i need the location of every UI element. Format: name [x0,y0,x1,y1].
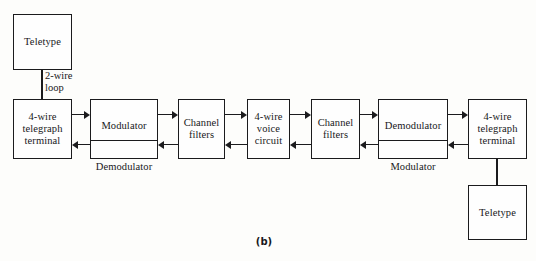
arrow-demodulator-to-terminal-right [448,110,468,119]
arrow-terminal-to-modulator-right [448,140,468,149]
arrow-demodulator-to-terminal [72,140,90,149]
arrow-filters-to-demodulator-left [158,140,178,149]
block-modulator-left: Modulator [91,112,157,141]
figure-caption: (b) [234,236,294,247]
block-modem-left: Modulator Demodulator [90,99,158,159]
arrow-modulator-to-filters-left [158,110,178,119]
connector-terminal-to-teletype-right [496,159,498,186]
arrow-filters-to-voice-left [225,110,247,119]
block-terminal-right: 4-wire telegraph terminal [468,99,527,159]
arrow-filters-to-demodulator-right [360,110,378,119]
block-teletype-left: Teletype [13,14,72,70]
block-voice-circuit: 4-wire voice circuit [247,99,290,159]
block-modulator-right: Modulator [379,153,447,182]
arrow-modulator-to-filters-right [360,140,378,149]
arrow-filters-to-voice-right [290,140,311,149]
block-channel-filters-right: Channel filters [311,99,360,159]
block-channel-filters-left: Channel filters [178,99,225,159]
block-modem-right: Demodulator Modulator [378,99,448,159]
block-demodulator-right: Demodulator [379,112,447,141]
connector-two-wire-loop [41,70,43,99]
block-teletype-right: Teletype [468,185,527,240]
arrow-voice-to-filters-left [225,140,247,149]
arrow-terminal-to-modulator [72,110,90,119]
block-diagram-figure: Teletype 2-wire loop 4-wire telegraph te… [0,0,536,261]
arrow-voice-to-filters-right [290,110,311,119]
block-demodulator-left: Demodulator [91,153,157,182]
label-two-wire-loop: 2-wire loop [45,70,72,94]
block-terminal-left: 4-wire telegraph terminal [13,99,72,159]
